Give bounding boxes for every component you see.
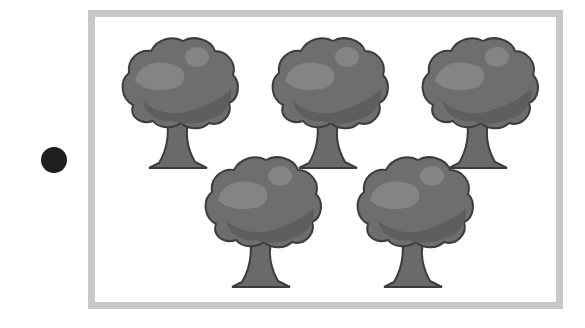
- tree-icon: [350, 152, 476, 292]
- filled-circle-icon: [41, 147, 67, 173]
- tree-icon: [198, 152, 324, 292]
